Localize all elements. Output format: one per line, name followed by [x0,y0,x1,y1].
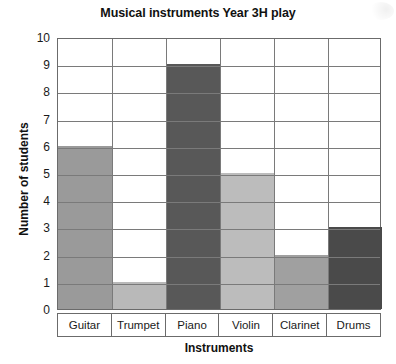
y-tick-label: 7 [4,114,50,126]
y-tick-label: 5 [4,168,50,180]
bar-violin [220,173,274,309]
plot-area [57,38,381,310]
y-tick-label: 3 [4,222,50,234]
x-tick-label-drums: Drums [327,314,380,336]
y-tick-label: 10 [4,32,50,44]
x-tick-label-guitar: Guitar [58,314,112,336]
y-tick-label: 1 [4,277,50,289]
bar-chart: Musical instruments Year 3H play Number … [0,0,396,364]
y-tick-label: 2 [4,250,50,262]
y-tick-label: 9 [4,59,50,71]
x-tick-label-clarinet: Clarinet [273,314,327,336]
gridline-vertical [112,39,113,309]
y-tick-label: 4 [4,195,50,207]
bar-drums [328,227,382,309]
bar-clarinet [274,255,328,309]
y-tick-label: 6 [4,141,50,153]
x-tick-label-violin: Violin [219,314,273,336]
bar-trumpet [112,282,166,309]
x-tick-label-piano: Piano [166,314,220,336]
bar-guitar [58,146,112,309]
x-axis-category-strip: GuitarTrumpetPianoViolinClarinetDrums [57,313,381,337]
bar-piano [166,64,220,309]
x-axis-label: Instruments [57,341,381,355]
chart-title: Musical instruments Year 3H play [0,6,396,20]
x-tick-label-trumpet: Trumpet [112,314,166,336]
y-tick-label: 0 [4,304,50,316]
y-tick-label: 8 [4,86,50,98]
